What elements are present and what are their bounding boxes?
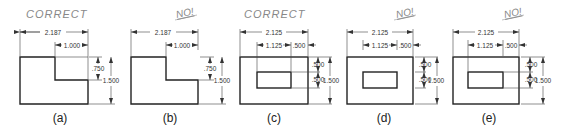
dim-notch-width: 1.000	[64, 42, 81, 49]
figure-caption: (b)	[163, 111, 178, 125]
dim-overall-width: 2.125	[372, 29, 389, 36]
dim-height: 1.500	[214, 77, 231, 84]
dim-notch-width: 1.000	[174, 42, 191, 49]
dimensioning-diagram: CORRECT 2.187 1.000 .750 1.500 (a) NO!	[0, 0, 565, 132]
figure-caption: (c)	[267, 111, 281, 125]
dim-overall-width: 2.187	[155, 29, 172, 36]
dim-hole-offset-y: .500	[312, 61, 325, 68]
outer-rectangle	[453, 57, 519, 104]
l-shape-part	[131, 57, 198, 104]
dim-hole-width: 1.125	[372, 42, 389, 49]
figure-d: NO! 2.125 1.125 .500 .500 .500 1.500 (d)	[347, 5, 445, 125]
inner-hole	[257, 72, 291, 88]
inner-hole	[468, 72, 503, 88]
l-shape-part	[20, 57, 88, 104]
verdict-label: CORRECT	[244, 8, 306, 20]
figure-a: CORRECT 2.187 1.000 .750 1.500 (a)	[20, 8, 120, 125]
dim-overall-width: 2.125	[478, 29, 495, 36]
dim-notch-depth: .750	[204, 65, 217, 72]
figure-caption: (d)	[377, 111, 392, 125]
dim-hole-offset-x: .500	[399, 42, 412, 49]
dim-height: 1.500	[535, 77, 552, 84]
figure-caption: (a)	[53, 111, 68, 125]
dim-overall-width: 2.187	[45, 29, 62, 36]
dim-hole-offset-x: .500	[293, 42, 306, 49]
figure-caption: (e)	[482, 111, 497, 125]
figure-c: CORRECT 2.125 1.125 .500 .500 .500 1.500…	[240, 8, 340, 125]
dim-hole-offset-y: .500	[525, 61, 538, 68]
outer-rectangle	[240, 57, 308, 104]
figure-e: NO! 2.125 1.125 .500 .500 .500 1.500 (e)	[453, 5, 552, 125]
dim-hole-offset-y: .500	[419, 61, 432, 68]
verdict-label: CORRECT	[26, 8, 88, 20]
dim-overall-width: 2.125	[266, 29, 283, 36]
dim-notch-depth: .750	[92, 65, 105, 72]
inner-hole	[363, 72, 397, 88]
dim-hole-offset-x: .500	[505, 42, 518, 49]
outer-rectangle	[347, 57, 413, 104]
dim-height: 1.500	[323, 77, 340, 84]
dim-height: 1.500	[428, 77, 445, 84]
dim-height: 1.500	[103, 77, 120, 84]
figure-b: NO! 2.187 1.000 .750 1.500 (b)	[131, 5, 231, 125]
dim-hole-width: 1.125	[477, 42, 494, 49]
dim-hole-width: 1.125	[266, 42, 283, 49]
